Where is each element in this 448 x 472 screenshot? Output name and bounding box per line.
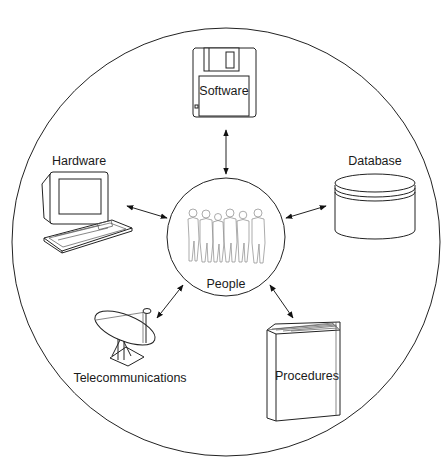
hardware-label: Hardware	[52, 154, 106, 168]
hardware-node: Hardware	[42, 154, 132, 253]
software-label: Software	[199, 84, 248, 98]
procedures-node: Procedures	[267, 322, 340, 421]
telecommunications-label: Telecommunications	[73, 371, 186, 385]
procedures-label: Procedures	[275, 369, 339, 383]
software-node: Software	[193, 48, 256, 117]
computer-terminal-icon	[42, 172, 132, 253]
people-label: People	[207, 277, 246, 291]
arrow-people-telecommunications	[157, 285, 183, 318]
telecommunications-node: Telecommunications	[73, 304, 186, 385]
database-cylinder-icon	[335, 174, 415, 239]
database-node: Database	[335, 154, 415, 239]
people-node: People	[167, 178, 285, 296]
satellite-dish-icon	[90, 304, 159, 366]
arrow-people-hardware	[127, 206, 167, 218]
arrow-people-database	[286, 206, 326, 218]
database-label: Database	[348, 154, 402, 168]
arrow-people-procedures	[270, 285, 293, 318]
information-system-diagram: People Software Hardware	[0, 0, 448, 472]
floppy-disk-icon	[193, 48, 256, 117]
